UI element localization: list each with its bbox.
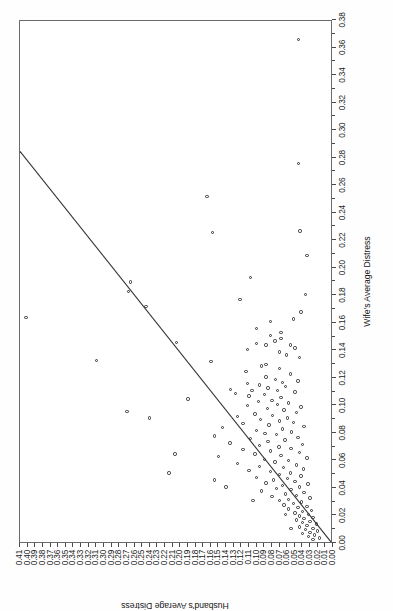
y-tick xyxy=(19,543,20,547)
data-point xyxy=(270,399,273,402)
x-tick-label: 0.30 xyxy=(338,123,347,138)
y-tick xyxy=(195,543,196,547)
y-tick xyxy=(286,543,287,547)
data-point xyxy=(236,415,239,418)
data-point xyxy=(307,535,310,538)
data-point xyxy=(264,363,267,366)
x-tick-minor xyxy=(332,473,335,474)
data-point xyxy=(284,492,287,495)
y-tick xyxy=(164,543,165,547)
data-point xyxy=(205,195,208,198)
data-point xyxy=(287,401,290,404)
data-point xyxy=(293,511,296,514)
x-tick-major xyxy=(332,294,336,295)
data-point xyxy=(283,438,286,441)
y-tick xyxy=(271,543,272,547)
data-point xyxy=(308,520,311,523)
data-points-layer xyxy=(20,21,331,542)
y-tick xyxy=(248,543,249,547)
x-tick-major xyxy=(332,47,336,48)
data-point xyxy=(259,418,262,421)
data-point xyxy=(292,421,295,424)
data-point xyxy=(299,474,302,477)
data-point xyxy=(175,341,178,344)
data-point xyxy=(249,437,252,440)
data-point xyxy=(284,513,287,516)
data-point xyxy=(299,405,302,408)
data-point xyxy=(258,383,261,386)
y-tick xyxy=(57,543,58,547)
y-tick xyxy=(126,543,127,547)
data-point xyxy=(289,527,292,530)
y-tick xyxy=(309,543,310,547)
data-point xyxy=(293,346,296,349)
y-tick xyxy=(294,543,295,547)
data-point xyxy=(318,536,321,539)
x-tick-label: 0.32 xyxy=(338,95,347,110)
data-point xyxy=(264,375,267,378)
y-tick xyxy=(301,543,302,547)
x-tick-major xyxy=(332,19,336,20)
data-point xyxy=(247,394,250,397)
data-point xyxy=(284,385,287,388)
x-tick-minor xyxy=(332,336,335,337)
data-point xyxy=(224,485,227,488)
data-point xyxy=(276,389,279,392)
data-point xyxy=(295,411,298,414)
data-point xyxy=(287,507,290,510)
data-point xyxy=(95,359,98,362)
x-tick-label: 0.26 xyxy=(338,178,347,193)
x-tick-major xyxy=(332,184,336,185)
plot-area xyxy=(19,20,332,543)
x-tick-major xyxy=(332,377,336,378)
data-point xyxy=(279,331,282,334)
y-tick xyxy=(65,543,66,547)
data-point xyxy=(316,529,319,532)
x-tick-label: 0.04 xyxy=(338,480,347,495)
x-tick-minor xyxy=(332,225,335,226)
x-tick-label: 0.06 xyxy=(338,453,347,468)
data-point xyxy=(229,388,232,391)
data-point xyxy=(263,393,266,396)
data-point xyxy=(296,506,299,509)
x-tick-label: 0.10 xyxy=(338,398,347,413)
data-point xyxy=(250,389,253,392)
data-point xyxy=(264,481,267,484)
data-point xyxy=(298,451,301,454)
data-point xyxy=(304,293,307,296)
x-tick-major xyxy=(332,74,336,75)
data-point xyxy=(292,317,295,320)
x-tick-minor xyxy=(332,253,335,254)
data-point xyxy=(255,342,258,345)
data-point xyxy=(278,419,281,422)
y-tick xyxy=(27,543,28,547)
data-point xyxy=(285,353,288,356)
x-axis-title: Wife's Average Distress xyxy=(362,20,372,543)
data-point xyxy=(282,466,285,469)
data-point xyxy=(211,231,214,234)
data-point xyxy=(266,440,269,443)
data-point xyxy=(228,441,231,444)
data-point xyxy=(298,229,301,232)
data-point xyxy=(298,514,301,517)
data-point xyxy=(278,499,281,502)
x-tick-major xyxy=(332,267,336,268)
data-point xyxy=(260,489,263,492)
data-point xyxy=(244,370,247,373)
data-point xyxy=(305,505,308,508)
data-point xyxy=(125,410,128,413)
x-tick-minor xyxy=(332,391,335,392)
data-point xyxy=(278,367,281,370)
y-tick xyxy=(111,543,112,547)
data-point xyxy=(271,414,274,417)
x-tick-minor xyxy=(332,501,335,502)
data-point xyxy=(263,432,266,435)
y-tick xyxy=(72,543,73,547)
data-point xyxy=(299,310,302,313)
data-point xyxy=(269,470,272,473)
x-tick-major xyxy=(332,129,336,130)
data-point xyxy=(293,390,296,393)
data-point xyxy=(266,407,269,410)
x-tick-major xyxy=(332,322,336,323)
data-point xyxy=(173,452,176,455)
